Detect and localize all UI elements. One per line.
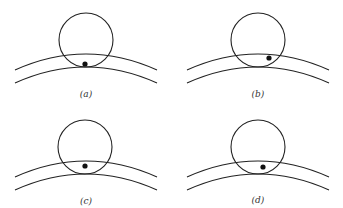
upper-arc: [15, 161, 157, 177]
upper-arc: [187, 161, 329, 177]
dot-marker: [266, 55, 271, 60]
dot-marker: [260, 164, 265, 169]
figure-canvas: (a) (b) (c) (d): [0, 0, 343, 208]
circle: [231, 13, 285, 67]
panel-d: (d): [187, 120, 329, 205]
circle: [59, 13, 113, 67]
lower-arc: [187, 67, 329, 83]
panel-b: (b): [187, 13, 329, 99]
dot-marker: [82, 61, 87, 66]
panel-label: (d): [252, 195, 265, 205]
upper-arc: [187, 54, 329, 70]
dot-marker: [82, 163, 87, 168]
lower-arc: [15, 67, 157, 83]
panel-label: (b): [252, 89, 265, 99]
lower-arc: [15, 174, 157, 190]
panel-c: (c): [15, 120, 157, 206]
lower-arc: [187, 174, 329, 190]
panel-label: (c): [80, 196, 93, 206]
panel-label: (a): [80, 89, 93, 99]
circle: [231, 120, 285, 174]
panel-a: (a): [15, 13, 157, 99]
